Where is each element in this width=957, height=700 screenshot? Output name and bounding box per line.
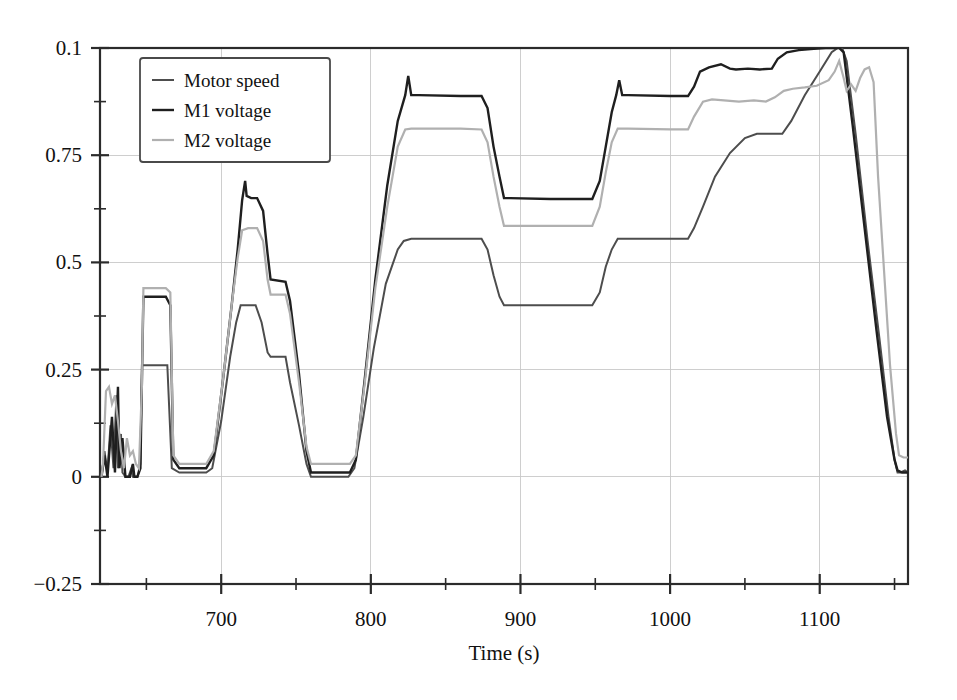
y-tick-label: 0.25: [45, 358, 82, 382]
x-tick-label: 700: [205, 607, 237, 631]
chart-legend: Motor speedM1 voltageM2 voltage: [140, 58, 330, 162]
chart-canvas: 0.10.750.50.250−0.25 70080090010001100 T…: [0, 0, 957, 700]
x-axis-tick-labels: 70080090010001100: [205, 607, 840, 631]
y-tick-label: 0.75: [45, 143, 82, 167]
y-tick-label: −0.25: [33, 572, 82, 596]
y-tick-label: 0.5: [56, 250, 82, 274]
legend-label: Motor speed: [184, 70, 280, 91]
legend-label: M2 voltage: [184, 130, 271, 151]
chart-figure: 0.10.750.50.250−0.25 70080090010001100 T…: [0, 0, 957, 700]
x-tick-label: 800: [355, 607, 387, 631]
y-tick-label: 0.1: [56, 36, 82, 60]
y-axis-tick-labels: 0.10.750.50.250−0.25: [33, 36, 82, 596]
legend-label: M1 voltage: [184, 100, 271, 121]
x-tick-label: 1100: [799, 607, 840, 631]
x-tick-label: 1000: [649, 607, 691, 631]
x-tick-label: 900: [505, 607, 537, 631]
x-axis-title: Time (s): [469, 641, 540, 665]
y-tick-label: 0: [72, 465, 83, 489]
